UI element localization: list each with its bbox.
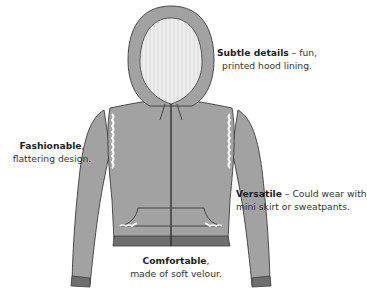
callout-comfortable: Comfortable, made of soft velour. xyxy=(124,255,228,280)
callout-title: Fashionable xyxy=(19,140,81,151)
left-sleeve xyxy=(72,110,110,285)
left-cuff xyxy=(71,276,90,287)
callout-fashionable: Fashionable, flattering design. xyxy=(0,140,104,165)
right-cuff xyxy=(252,276,271,287)
callout-versatile: Versatile – Could wear with mini skirt o… xyxy=(236,188,348,213)
callout-title: Versatile xyxy=(236,188,282,199)
callout-title: Comfortable xyxy=(143,255,207,266)
callout-subtle-details: Subtle details – fun, printed hood linin… xyxy=(212,47,322,72)
callout-title: Subtle details xyxy=(217,47,289,58)
